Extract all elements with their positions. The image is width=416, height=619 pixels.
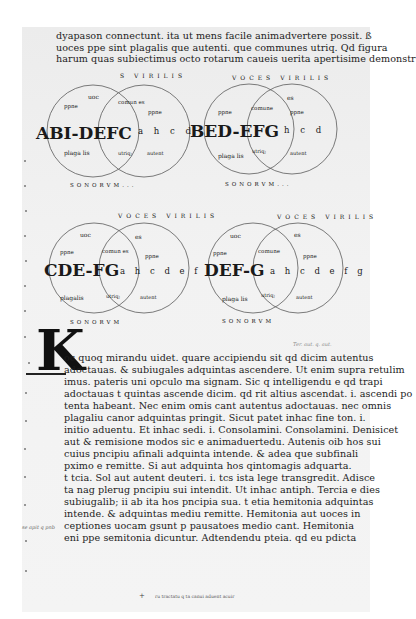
- svg-text:utriq;: utriq;: [118, 150, 132, 157]
- diagram-4-right-label: a h c d e f g: [270, 266, 366, 276]
- diagram-4: DEF-G a h c d e f g uoc ppne plaga lis c…: [204, 213, 377, 324]
- svg-text:VOCES VIRILIS: VOCES VIRILIS: [117, 212, 218, 219]
- svg-text:SONORVM...: SONORVM...: [225, 181, 291, 187]
- svg-text:SONORVM...: SONORVM...: [70, 182, 136, 188]
- svg-text:autent: autent: [290, 150, 306, 156]
- body-line: adoctauas. & subiugales adquintas ascend…: [64, 364, 405, 375]
- svg-text:uoc: uoc: [88, 93, 99, 100]
- body-line: intende. & adquintas mediu remitte. Hemi…: [64, 508, 360, 519]
- body-line: cuius pncipiu afinali adquinta intende. …: [64, 448, 358, 459]
- svg-text:comun es: comun es: [102, 248, 129, 254]
- svg-text:VOCES VIRILIS: VOCES VIRILIS: [276, 213, 377, 220]
- body-line: plagaliu canor adquintas pringit. Sicut …: [64, 412, 366, 423]
- diagram-1-left-label: ABI-DEFC: [35, 123, 132, 143]
- body-line: subiugalib; ii ab ita hos pncipia sua. t…: [64, 496, 373, 507]
- svg-text:es: es: [135, 233, 142, 240]
- svg-text:comune: comune: [258, 248, 280, 254]
- body-line: initio aduentu. Et inhac sedi. i. Consol…: [64, 424, 398, 435]
- svg-text:ppne: ppne: [64, 103, 78, 110]
- svg-text:utriq;: utriq;: [261, 292, 275, 299]
- svg-text:ppne: ppne: [60, 249, 74, 256]
- body-line: tenta habeant. Nec enim omis cant autent…: [64, 400, 391, 411]
- body-line: t tcia. Sol aut autent deuteri. i. tcs i…: [64, 472, 375, 483]
- svg-text:utriq;: utriq;: [252, 148, 266, 155]
- svg-text:autent: autent: [140, 294, 156, 300]
- diagram-3: CDE-FG a h c d e f uoc ppne plagalis com…: [44, 212, 218, 325]
- svg-text:ppne: ppne: [148, 109, 162, 116]
- svg-text:comun es: comun es: [118, 99, 145, 105]
- diagram-3-right-label: a h c d e f: [120, 266, 201, 276]
- svg-text:ppne: ppne: [303, 253, 317, 260]
- svg-text:uoc: uoc: [80, 231, 91, 238]
- svg-text:plaga lis: plaga lis: [222, 295, 248, 303]
- marginal-annotation: Ter. aut. q. aut.: [293, 341, 332, 347]
- body-line: ceptiones uocam gsunt p pausatoes medio …: [64, 520, 354, 531]
- svg-text:VOCES VIRILIS: VOCES VIRILIS: [231, 74, 332, 81]
- body-line: oc quoq mirandu uidet. quare accipiendu …: [64, 352, 374, 363]
- diagram-1-right-label: a h c d: [138, 126, 195, 136]
- svg-text:comune: comune: [251, 105, 273, 111]
- body-line: eni ppe semitonia dicuntur. Adtendendu p…: [64, 532, 356, 543]
- svg-text:utriq;: utriq;: [106, 293, 120, 300]
- svg-text:ppne: ppne: [145, 253, 159, 260]
- svg-text:es: es: [287, 94, 294, 101]
- diagram-2-right-label: h c d: [284, 125, 325, 135]
- diagram-2: BED-EFG h c d ppne plaga lis comune utri…: [190, 74, 337, 187]
- body-line: pximo e remitte. Si aut adquinta hos qin…: [64, 460, 352, 471]
- svg-text:plaga lis: plaga lis: [64, 149, 90, 157]
- margin-note-left: se apit q pnb: [22, 524, 55, 530]
- body-line: aut & remisione modos sic e animaduerted…: [64, 436, 381, 447]
- body-line: imus. pateris uni opculo ma signam. Sic …: [64, 376, 383, 387]
- colophon-text: ru tractatu q ta canui aduent acuir: [155, 594, 234, 599]
- initial-flourish: [26, 373, 66, 375]
- diagram-2-left-label: BED-EFG: [190, 121, 279, 141]
- svg-text:autent: autent: [296, 294, 312, 300]
- svg-text:SONORVM: SONORVM: [222, 318, 274, 324]
- svg-text:autent: autent: [147, 150, 163, 156]
- body-line: ta nag plerug pncipiu sui intendit. Ut i…: [64, 484, 380, 495]
- svg-text:uoc: uoc: [230, 232, 241, 239]
- diagram-4-left-label: DEF-G: [204, 260, 265, 280]
- body-line: adoctauas t quintas ascende dicim. qd ri…: [64, 388, 412, 399]
- svg-text:ppne: ppne: [213, 250, 227, 257]
- svg-text:ppne: ppne: [218, 109, 232, 116]
- diagram-1: ABI-DEFC a h c d uoc ppne plaga lis comu…: [35, 72, 195, 188]
- cross-icon: +: [139, 592, 145, 600]
- svg-text:ppne: ppne: [290, 109, 304, 116]
- svg-text:plagalis: plagalis: [60, 294, 84, 302]
- diagram-3-left-label: CDE-FG: [44, 260, 119, 280]
- svg-text:es: es: [294, 231, 301, 238]
- svg-text:plaga lis: plaga lis: [218, 152, 244, 160]
- svg-text:S VIRILIS: S VIRILIS: [120, 72, 186, 79]
